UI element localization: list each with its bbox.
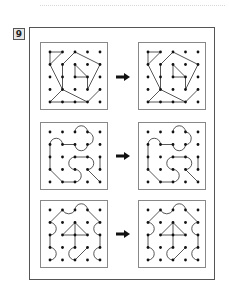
- top-dotted-rule: [40, 5, 225, 6]
- problem-number-badge: 9: [13, 28, 25, 40]
- dot-grid-figure: [41, 123, 109, 191]
- dot-grid-figure: [41, 201, 109, 269]
- pattern-2-copy: [138, 122, 206, 190]
- arrow-right-icon: [116, 73, 130, 81]
- dot-grid-figure: [139, 201, 207, 269]
- arrow-right-icon: [116, 230, 130, 238]
- pattern-3-copy: [138, 200, 206, 268]
- dot-grid-figure: [41, 43, 109, 111]
- pattern-1-original: [40, 42, 108, 110]
- pattern-1-copy: [138, 42, 206, 110]
- pattern-3-original: [40, 200, 108, 268]
- dot-grid-figure: [139, 123, 207, 191]
- pattern-2-original: [40, 122, 108, 190]
- dot-grid-figure: [139, 43, 207, 111]
- arrow-right-icon: [116, 152, 130, 160]
